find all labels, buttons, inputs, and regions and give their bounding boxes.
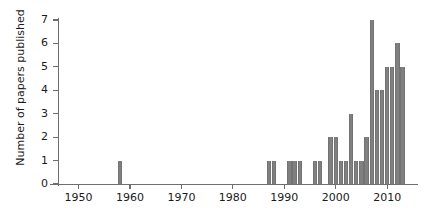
y-tick-label: 3 <box>28 108 48 119</box>
x-tick-label: 1960 <box>108 192 152 203</box>
x-tick-mark <box>387 184 388 189</box>
bar <box>395 43 399 184</box>
x-tick-mark <box>284 184 285 189</box>
bar <box>400 67 404 184</box>
x-tick-mark <box>335 184 336 189</box>
x-tick-label: 2010 <box>365 192 409 203</box>
bar-chart-figure: Number of papers published 01234567 1950… <box>0 0 425 217</box>
bar <box>375 90 379 184</box>
y-tick-label: 0 <box>28 178 48 189</box>
x-tick-mark <box>129 184 130 189</box>
bar <box>364 137 368 184</box>
bar <box>292 161 296 184</box>
y-tick-label: 1 <box>28 155 48 166</box>
bar <box>354 161 358 184</box>
x-tick-mark <box>78 184 79 189</box>
y-tick-label: 7 <box>28 14 48 25</box>
x-tick-label: 2000 <box>314 192 358 203</box>
y-tick-label: 2 <box>28 131 48 142</box>
bar <box>344 161 348 184</box>
bar <box>318 161 322 184</box>
x-tick-mark <box>181 184 182 189</box>
bar <box>359 161 363 184</box>
bar <box>339 161 343 184</box>
bar <box>267 161 271 184</box>
y-axis-label: Number of papers published <box>14 0 28 196</box>
bar <box>349 114 353 184</box>
x-tick-label: 1950 <box>57 192 101 203</box>
bar <box>298 161 302 184</box>
y-tick-label: 6 <box>28 37 48 48</box>
bar <box>328 137 332 184</box>
x-tick-mark <box>232 184 233 189</box>
x-axis-line <box>50 184 418 185</box>
bar <box>118 161 122 184</box>
bar <box>334 137 338 184</box>
bar <box>272 161 276 184</box>
bar <box>380 90 384 184</box>
x-tick-label: 1980 <box>211 192 255 203</box>
bar <box>313 161 317 184</box>
bar <box>390 67 394 184</box>
y-tick-label: 4 <box>28 84 48 95</box>
plot-area <box>58 20 418 184</box>
x-tick-label: 1990 <box>262 192 306 203</box>
y-tick-label: 5 <box>28 61 48 72</box>
bar <box>287 161 291 184</box>
bar <box>385 67 389 184</box>
bar <box>370 20 374 184</box>
x-tick-label: 1970 <box>159 192 203 203</box>
